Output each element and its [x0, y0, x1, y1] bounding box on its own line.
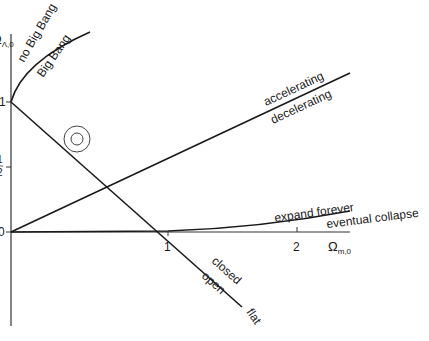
y-tick-label-half-num: 1	[0, 154, 3, 165]
cosmology-diagram: 1 1 2 0 1 2 ΩΛ,0 Ωm,0 no Big Bang Big Ba…	[0, 0, 429, 341]
y-tick-label-half-den: 2	[0, 167, 3, 178]
x-axis-label: Ωm,0	[328, 239, 352, 256]
y-tick-label-0: 0	[0, 225, 5, 239]
y-tick-label-1: 1	[0, 95, 6, 109]
current-universe-marker	[64, 126, 90, 152]
flat-label: flat	[244, 306, 265, 328]
y-axis-label: ΩΛ,0	[0, 32, 14, 49]
x-tick-label-2: 2	[293, 240, 300, 254]
